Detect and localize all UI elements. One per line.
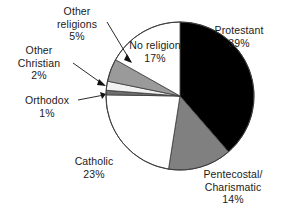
slice-label-protestant: Protestant 39% (200, 24, 278, 49)
pie-chart-figure: Protestant 39% Pentecostal/ Charismatic … (0, 0, 283, 217)
slice-label-pentecostal-charismatic: Pentecostal/ Charismatic 14% (186, 168, 280, 206)
slice-label-catholic: Catholic 23% (58, 155, 130, 180)
slice-label-orthodox: Orthodox 1% (14, 94, 80, 119)
arrowhead-other-christian-icon (97, 79, 106, 86)
leader-line-orthodox (78, 95, 104, 100)
slice-label-other-christian: Other Christian 2% (2, 44, 76, 82)
slice-label-no-religion: No religion 17% (118, 39, 192, 64)
slice-label-other-religions: Other religions 5% (44, 5, 110, 43)
